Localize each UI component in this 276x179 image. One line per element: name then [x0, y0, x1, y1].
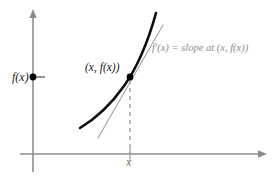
- tangency-point: [127, 74, 134, 81]
- tangency-point-label: (x, f(x)): [85, 62, 119, 74]
- x-axis: [20, 150, 267, 157]
- derivative-tangent-figure: f(x) (x, f(x)) x f'(x) = slope at (x, f(…: [0, 0, 276, 179]
- y-axis: [29, 9, 36, 172]
- y-axis-value-label: f(x): [12, 71, 29, 83]
- y-axis-arrowhead-icon: [29, 9, 36, 18]
- figure-canvas: [0, 0, 276, 179]
- y-value-point: [30, 74, 37, 81]
- x-axis-value-label: x: [126, 156, 131, 168]
- x-axis-arrowhead-icon: [258, 150, 267, 157]
- slope-annotation-label: f'(x) = slope at (x, f(x)): [152, 43, 248, 54]
